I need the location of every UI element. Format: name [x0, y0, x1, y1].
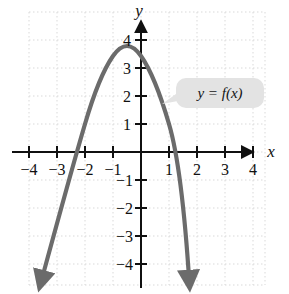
x-tick-label: −3: [48, 161, 65, 178]
x-tick-label: −4: [20, 161, 37, 178]
coordinate-plane: x y −4 −3 −2 −1 1 2 3 4 4 3 2 1 −1 −2 −3…: [0, 0, 289, 294]
y-tick-label: −4: [116, 256, 133, 273]
y-tick-label: 4: [123, 32, 131, 49]
x-tick-label: 4: [249, 161, 257, 178]
x-tick-label: 3: [221, 161, 229, 178]
callout-label: y = f(x): [195, 85, 242, 102]
x-tick-label: −2: [76, 161, 93, 178]
y-tick-label: 1: [123, 116, 131, 133]
y-tick-label: −1: [116, 172, 133, 189]
grid-lines: [29, 12, 265, 285]
x-tick-labels: −4 −3 −2 −1 1 2 3 4: [20, 161, 257, 178]
y-tick-label: 2: [123, 88, 131, 105]
y-tick-label: 3: [123, 60, 131, 77]
graph-figure: x y −4 −3 −2 −1 1 2 3 4 4 3 2 1 −1 −2 −3…: [0, 0, 289, 294]
y-tick-label: −2: [116, 200, 133, 217]
x-tick-label: 1: [165, 161, 173, 178]
x-axis-label: x: [266, 142, 275, 161]
y-axis-label: y: [133, 1, 143, 20]
y-tick-label: −3: [116, 228, 133, 245]
x-tick-label: 2: [193, 161, 201, 178]
